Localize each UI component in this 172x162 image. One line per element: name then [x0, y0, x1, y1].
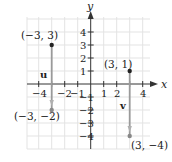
y-tick-label: 4 [80, 27, 86, 38]
x-axis-arrow-icon [150, 81, 158, 87]
y-tick-label: −3 [79, 118, 94, 129]
point-end [128, 134, 132, 138]
y-tick-label: −1 [79, 92, 94, 103]
vector-v-label: v [119, 100, 127, 111]
arrowhead-icon [128, 126, 132, 132]
x-axis-label: x [161, 78, 168, 91]
point-label: (−3, 3) [21, 29, 58, 41]
arrowhead-icon [50, 100, 54, 106]
y-tick-label: 2 [80, 53, 86, 64]
point-label: (3, 1) [104, 58, 132, 70]
y-tick-label: −2 [79, 105, 94, 116]
x-tick-label: −4 [32, 88, 47, 99]
vector-u [50, 43, 54, 112]
y-tick-label: −4 [79, 131, 94, 142]
vector-u-label: u [40, 69, 47, 80]
x-tick-label: 4 [140, 88, 146, 99]
y-axis-label: y [86, 0, 94, 13]
point-label: (3, −4) [131, 139, 168, 151]
point-label: (−3, −2) [14, 110, 60, 122]
x-tick-label: 1 [101, 88, 107, 99]
x-tick-label: 2 [114, 88, 120, 99]
vector-v [128, 69, 132, 138]
point-start [50, 43, 54, 47]
y-tick-label: 1 [80, 66, 86, 77]
coordinate-plane: x y −4 −2 −1 1 2 4 4 3 2 1 −1 −2 −3 −4 u… [0, 0, 172, 162]
y-tick-label: 3 [80, 40, 86, 51]
